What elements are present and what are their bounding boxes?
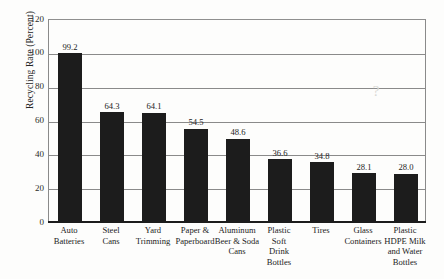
bar-value-label: 64.1 xyxy=(133,102,175,111)
bar-value-label: 36.6 xyxy=(259,149,301,158)
bar-value-label: 48.6 xyxy=(217,128,259,137)
bar[interactable] xyxy=(100,112,124,221)
category-label-line: Batteries xyxy=(46,236,92,247)
bar[interactable] xyxy=(184,129,208,221)
bar-group[interactable]: 34.8 xyxy=(301,18,343,221)
category-label: AutoBatteries xyxy=(46,225,92,246)
bar-value-label: 54.5 xyxy=(175,118,217,127)
category-label-line: Yard xyxy=(130,225,176,236)
category-label-line: Auto xyxy=(46,225,92,236)
bar[interactable] xyxy=(142,113,166,221)
category-label: SteelCans xyxy=(88,225,134,246)
bar-group[interactable]: 54.5 xyxy=(175,18,217,221)
x-axis-category-labels: AutoBatteriesSteelCansYardTrimmingPaper … xyxy=(48,225,426,279)
bar-value-label: 28.1 xyxy=(343,163,385,172)
bar[interactable] xyxy=(268,159,292,221)
bar[interactable] xyxy=(352,173,376,221)
category-label-line: Paper & xyxy=(172,225,218,236)
category-label: Paper &Paperboard xyxy=(172,225,218,246)
plot-area: 99.264.364.154.548.636.634.828.128.0 xyxy=(48,19,426,222)
y-tick-label: 120 xyxy=(4,15,44,24)
bar-group[interactable]: 64.3 xyxy=(91,18,133,221)
y-tick-label: 100 xyxy=(4,48,44,57)
category-label-line: Soft xyxy=(256,236,302,247)
bar-value-label: 64.3 xyxy=(91,102,133,111)
recycling-rate-bar-chart: Recycling Rate (Percent) 020406080100120… xyxy=(0,0,444,279)
bar-group[interactable]: 48.6 xyxy=(217,18,259,221)
category-label-line: and Water xyxy=(382,246,428,257)
category-label-line: Aluminum xyxy=(214,225,260,236)
bar[interactable] xyxy=(394,174,418,221)
bar-group[interactable]: 36.6 xyxy=(259,18,301,221)
bar[interactable] xyxy=(226,139,250,221)
category-label-line: Cans xyxy=(214,246,260,257)
category-label-line: Trimming xyxy=(130,236,176,247)
bar[interactable] xyxy=(310,162,334,221)
category-label: PlasticSoftDrinkBottles xyxy=(256,225,302,267)
bar-value-label: 28.0 xyxy=(385,163,427,172)
y-tick-label: 20 xyxy=(4,184,44,193)
category-label-line: Drink xyxy=(256,246,302,257)
y-tick-label: 0 xyxy=(4,218,44,227)
bar-value-label: 99.2 xyxy=(49,43,91,52)
category-label-line: Plastic xyxy=(382,225,428,236)
category-label: GlassContainers xyxy=(340,225,386,246)
category-label-line: Tires xyxy=(298,225,344,236)
category-label: PlasticHDPE Milkand WaterBottles xyxy=(382,225,428,267)
category-label: YardTrimming xyxy=(130,225,176,246)
category-label-line: Bottles xyxy=(382,257,428,268)
bars-layer: 99.264.364.154.548.636.634.828.128.0 xyxy=(49,20,425,221)
bar-value-label: 34.8 xyxy=(301,152,343,161)
bar-group[interactable]: 28.1 xyxy=(343,18,385,221)
category-label-line: Bottles xyxy=(256,257,302,268)
bar-group[interactable]: 99.2 xyxy=(49,18,91,221)
bar-group[interactable]: 28.0 xyxy=(385,18,427,221)
category-label-line: Plastic xyxy=(256,225,302,236)
category-label-line: Cans xyxy=(88,236,134,247)
category-label-line: Beer & Soda xyxy=(214,236,260,247)
category-label-line: Steel xyxy=(88,225,134,236)
category-label-line: Paperboard xyxy=(172,236,218,247)
category-label: Tires xyxy=(298,225,344,236)
x-axis-line xyxy=(48,221,426,223)
category-label: AluminumBeer & SodaCans xyxy=(214,225,260,257)
y-tick-label: 60 xyxy=(4,116,44,125)
category-label-line: Glass xyxy=(340,225,386,236)
category-label-line: HDPE Milk xyxy=(382,236,428,247)
y-tick-label: 40 xyxy=(4,150,44,159)
y-axis-tick-labels: 020406080100120 xyxy=(0,0,44,279)
y-tick-label: 80 xyxy=(4,82,44,91)
category-label-line: Containers xyxy=(340,236,386,247)
bar-group[interactable]: 64.1 xyxy=(133,18,175,221)
bar[interactable] xyxy=(58,53,82,221)
